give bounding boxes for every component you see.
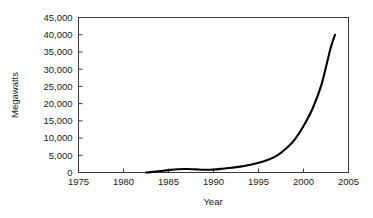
- y-tick-label: 25,000: [43, 81, 72, 92]
- y-tick-label: 10,000: [43, 132, 72, 143]
- y-axis-title: Megawatts: [9, 72, 20, 118]
- line-chart: 05,00010,00015,00020,00025,00030,00035,0…: [0, 0, 373, 218]
- x-tick-label: 1975: [68, 176, 89, 187]
- y-tick-label: 20,000: [43, 98, 72, 109]
- y-tick-label: 40,000: [43, 29, 72, 40]
- x-tick-label: 1995: [248, 176, 269, 187]
- x-tick-label: 1985: [158, 176, 179, 187]
- x-tick-label: 1990: [203, 176, 224, 187]
- y-tick-label: 45,000: [43, 12, 72, 23]
- y-tick-label: 30,000: [43, 64, 72, 75]
- y-tick-label: 5,000: [49, 150, 73, 161]
- y-tick-label: 15,000: [43, 115, 72, 126]
- x-tick-label: 1980: [113, 176, 134, 187]
- x-axis-title: Year: [203, 196, 222, 207]
- x-tick-label: 2005: [338, 176, 359, 187]
- chart-container: 05,00010,00015,00020,00025,00030,00035,0…: [0, 0, 373, 218]
- x-tick-label: 2000: [293, 176, 314, 187]
- y-tick-label: 35,000: [43, 46, 72, 57]
